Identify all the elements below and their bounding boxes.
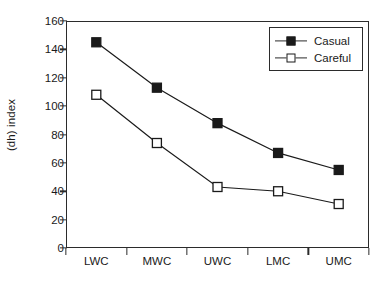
x-tick-label: MWC (143, 255, 172, 267)
y-tick-mark (60, 162, 67, 163)
y-tick-label: 60 (18, 157, 64, 169)
y-tick-mark (60, 134, 67, 135)
open-square-icon (274, 51, 308, 65)
x-tick-label: LWC (84, 255, 109, 267)
x-tick-mark (126, 248, 127, 255)
x-tick-label: LMC (266, 255, 290, 267)
y-tick-mark (60, 191, 67, 192)
y-axis-title: (dh) index (0, 0, 22, 250)
y-tick-label: 20 (18, 214, 64, 226)
y-tick-mark (60, 219, 67, 220)
x-tick-mark (65, 248, 66, 255)
x-tick-mark (368, 248, 369, 255)
y-tick-label: 160 (18, 15, 64, 27)
y-tick-mark (60, 20, 67, 21)
y-tick-label: 40 (18, 185, 64, 197)
x-tick-mark (187, 248, 188, 255)
y-tick-mark (60, 77, 67, 78)
line-chart: (dh) index 020406080100120140160 LWCMWCU… (0, 0, 388, 291)
legend-item-casual: Casual (274, 32, 357, 49)
legend-label-careful: Careful (308, 52, 351, 64)
legend-label-casual: Casual (308, 35, 350, 47)
y-tick-label: 100 (18, 100, 64, 112)
y-tick-mark (60, 105, 67, 106)
x-tick-mark (247, 248, 248, 255)
x-tick-label: UMC (326, 255, 352, 267)
y-tick-label: 120 (18, 72, 64, 84)
filled-square-icon (274, 34, 308, 48)
legend-item-careful: Careful (274, 49, 357, 66)
y-tick-label: 0 (18, 242, 64, 254)
y-axis-title-text: (dh) index (5, 99, 17, 151)
chart-legend: Casual Careful (269, 27, 363, 71)
y-tick-label: 140 (18, 43, 64, 55)
x-tick-mark (308, 248, 309, 255)
x-tick-label: UWC (204, 255, 231, 267)
y-tick-label: 80 (18, 129, 64, 141)
y-tick-mark (60, 49, 67, 50)
